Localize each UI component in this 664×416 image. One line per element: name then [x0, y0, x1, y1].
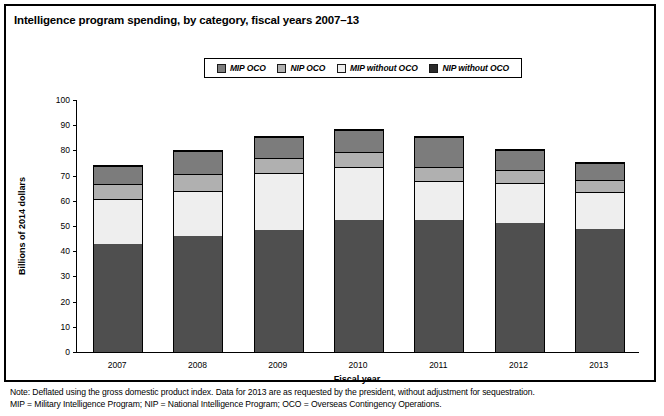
bar-segment[interactable] — [576, 180, 624, 192]
bar-group[interactable]: 2008 — [173, 100, 221, 352]
legend-item-label: MIP OCO — [230, 63, 266, 73]
y-axis-tick-label: 80 — [61, 145, 77, 155]
note-line: MIP = Military Intelligence Program; NIP… — [10, 398, 658, 410]
legend-item: MIP without OCO — [337, 63, 418, 73]
bar-segment[interactable] — [94, 244, 142, 352]
bar-segment[interactable] — [94, 166, 142, 183]
bar-segment[interactable] — [496, 223, 544, 352]
legend-item: MIP OCO — [217, 63, 266, 73]
legend-swatch-icon — [277, 64, 286, 73]
bar-stack[interactable] — [495, 149, 545, 353]
bar-group[interactable]: 2007 — [93, 100, 141, 352]
bar-segment[interactable] — [94, 184, 142, 199]
y-axis-tick-label: 50 — [61, 221, 77, 231]
bar-stack[interactable] — [254, 136, 304, 353]
legend-item-label: NIP OCO — [290, 63, 325, 73]
bar-segment[interactable] — [576, 163, 624, 180]
bar-segment[interactable] — [335, 220, 383, 352]
chart-page: Intelligence program spending, by catego… — [0, 0, 664, 416]
bar-segment[interactable] — [174, 174, 222, 191]
y-axis-label: Billions of 2014 dollars — [17, 177, 27, 275]
bar-segment[interactable] — [496, 170, 544, 184]
legend-item-label: NIP without OCO — [442, 63, 509, 73]
note-line: Note: Deflated using the gross domestic … — [10, 386, 658, 398]
chart-notes: Note: Deflated using the gross domestic … — [10, 386, 658, 410]
y-axis-tick-label: 60 — [61, 196, 77, 206]
y-axis-tick-label: 100 — [56, 95, 77, 105]
bar-group[interactable]: 2013 — [575, 100, 623, 352]
bar-stack[interactable] — [334, 129, 384, 353]
legend-item: NIP OCO — [277, 63, 325, 73]
bar-segment[interactable] — [174, 236, 222, 352]
x-axis-tick-label: 2008 — [188, 360, 207, 370]
y-axis-tick-label: 30 — [61, 271, 77, 281]
x-axis-tick-label: 2013 — [589, 360, 608, 370]
x-axis-tick-label: 2010 — [349, 360, 368, 370]
bar-segment[interactable] — [415, 137, 463, 167]
bar-segment[interactable] — [174, 191, 222, 236]
bar-group[interactable]: 2010 — [334, 100, 382, 352]
bar-group[interactable]: 2009 — [254, 100, 302, 352]
bar-segment[interactable] — [576, 229, 624, 352]
bar-segment[interactable] — [496, 183, 544, 223]
bar-segment[interactable] — [174, 151, 222, 173]
bar-segment[interactable] — [335, 152, 383, 167]
bar-segment[interactable] — [415, 181, 463, 220]
bar-segment[interactable] — [94, 199, 142, 244]
bar-stack[interactable] — [173, 150, 223, 353]
bar-segment[interactable] — [255, 173, 303, 229]
y-axis-tick-label: 40 — [61, 246, 77, 256]
bar-segment[interactable] — [415, 220, 463, 352]
bar-segment[interactable] — [255, 158, 303, 173]
bar-series-container: 2007200820092010201120122013 — [77, 100, 639, 352]
page-title: Intelligence program spending, by catego… — [14, 14, 359, 26]
chart-legend: MIP OCONIP OCOMIP without OCONIP without… — [204, 58, 522, 78]
bar-group[interactable]: 2011 — [414, 100, 462, 352]
x-axis-tick-label: 2012 — [509, 360, 528, 370]
bar-segment[interactable] — [496, 150, 544, 170]
y-axis-tick-label: 90 — [61, 120, 77, 130]
legend-item: NIP without OCO — [429, 63, 509, 73]
y-axis-tick-label: 20 — [61, 297, 77, 307]
bar-stack[interactable] — [575, 162, 625, 353]
legend-swatch-icon — [337, 64, 346, 73]
x-axis-tick-label: 2007 — [108, 360, 127, 370]
y-axis-tick-label: 0 — [65, 347, 77, 357]
legend-item-label: MIP without OCO — [350, 63, 418, 73]
bar-segment[interactable] — [255, 137, 303, 158]
bar-stack[interactable] — [93, 165, 143, 353]
x-axis-tick-label: 2011 — [429, 360, 447, 370]
legend-swatch-icon — [429, 64, 438, 73]
bar-segment[interactable] — [335, 130, 383, 152]
bar-segment[interactable] — [415, 167, 463, 181]
bar-segment[interactable] — [335, 167, 383, 220]
y-axis-tick-label: 10 — [61, 322, 77, 332]
bar-group[interactable]: 2012 — [495, 100, 543, 352]
bar-stack[interactable] — [414, 136, 464, 353]
bar-segment[interactable] — [576, 192, 624, 228]
x-axis-label: Fiscal year — [334, 374, 381, 384]
y-axis-tick-label: 70 — [61, 171, 77, 181]
bar-segment[interactable] — [255, 230, 303, 352]
plot-area: 0102030405060708090100 20072008200920102… — [76, 100, 639, 353]
legend-swatch-icon — [217, 64, 226, 73]
x-axis-tick-label: 2009 — [268, 360, 287, 370]
